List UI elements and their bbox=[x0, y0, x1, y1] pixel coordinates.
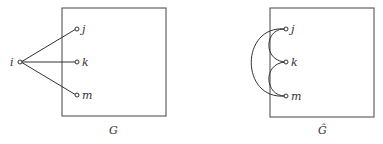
label-m: m bbox=[291, 90, 301, 103]
node-k bbox=[284, 60, 288, 64]
label-k: k bbox=[291, 56, 298, 69]
node-m bbox=[284, 94, 288, 98]
node-j bbox=[75, 27, 79, 31]
graph-g: i j k m G bbox=[10, 8, 166, 137]
node-i bbox=[18, 60, 22, 64]
node-j bbox=[284, 27, 288, 31]
node-k bbox=[75, 60, 79, 64]
caption-g-hat: Ĝ bbox=[318, 123, 327, 137]
label-i: i bbox=[10, 56, 14, 69]
label-j: j bbox=[288, 23, 295, 36]
label-m: m bbox=[82, 89, 92, 102]
graph-g-hat: j k m Ĝ bbox=[251, 8, 374, 137]
caption-g: G bbox=[109, 124, 118, 137]
node-m bbox=[75, 93, 79, 97]
diagram-canvas: i j k m G j k m Ĝ bbox=[0, 0, 383, 144]
label-j: j bbox=[79, 23, 86, 36]
label-k: k bbox=[82, 56, 89, 69]
